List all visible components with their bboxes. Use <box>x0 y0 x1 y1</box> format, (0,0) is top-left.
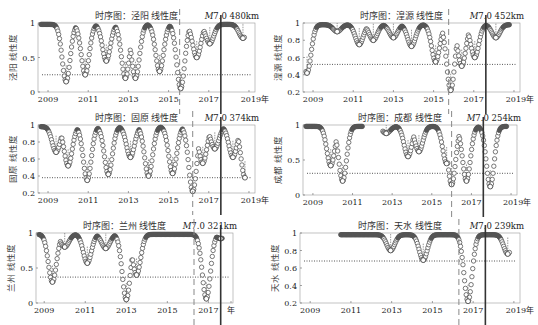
data-point <box>452 70 456 74</box>
data-point <box>139 250 143 254</box>
data-point <box>495 138 499 142</box>
figure-canvas: 时序图：泾阳 线性度M7.0 480km泾阳 线性度00.51200920112… <box>0 0 538 325</box>
data-point <box>325 151 329 155</box>
data-point <box>185 150 189 154</box>
data-point <box>439 140 443 144</box>
dip-point <box>391 35 396 40</box>
y-tick-label: 0 <box>28 299 33 308</box>
dip-point <box>335 29 340 34</box>
data-point <box>163 42 167 46</box>
data-point <box>116 244 120 248</box>
x-tick-label: 2015 <box>157 306 177 315</box>
data-point <box>186 157 190 161</box>
data-point <box>53 268 57 272</box>
data-point <box>120 61 124 65</box>
dip-point <box>243 175 248 180</box>
x-tick-label: 2017 <box>199 95 219 104</box>
dip-point <box>459 64 464 69</box>
data-point <box>139 135 143 139</box>
data-point <box>174 55 178 59</box>
data-point <box>127 281 131 285</box>
data-point <box>455 44 459 48</box>
dip-point <box>85 178 90 183</box>
data-point <box>464 46 468 50</box>
data-point <box>490 177 494 181</box>
data-point <box>153 47 157 51</box>
data-point <box>462 279 466 283</box>
y-tick-label: 0.8 <box>22 138 35 147</box>
data-point <box>151 33 155 37</box>
data-point <box>154 53 158 57</box>
data-point <box>78 137 82 141</box>
data-point <box>183 134 187 138</box>
x-tick-label: 2009 <box>38 196 58 205</box>
data-point <box>66 71 70 75</box>
x-tick-label: 2019年 <box>241 195 269 205</box>
dip-point <box>128 155 133 160</box>
y-tick-label: 0.2 <box>284 299 297 308</box>
data-point <box>197 150 201 154</box>
data-point <box>468 290 472 294</box>
data-point <box>461 263 465 267</box>
data-point <box>142 156 146 160</box>
data-point <box>171 36 175 40</box>
data-point <box>117 248 121 252</box>
data-point <box>458 142 462 146</box>
dip-point <box>421 258 426 263</box>
data-point <box>121 277 125 281</box>
x-tick-label: 2009 <box>300 306 320 315</box>
data-point <box>80 147 84 151</box>
data-point <box>149 164 153 168</box>
dip-point <box>103 246 108 251</box>
y-tick-label: 0.8 <box>284 247 297 256</box>
data-point <box>100 138 104 142</box>
data-point <box>332 154 336 158</box>
y-tick-label: 0.2 <box>287 88 300 97</box>
data-point <box>507 23 511 27</box>
data-point <box>121 67 125 71</box>
data-point <box>198 45 202 49</box>
data-point <box>61 144 65 148</box>
data-point <box>188 180 192 184</box>
data-point <box>69 152 73 156</box>
data-point <box>136 64 140 68</box>
data-point <box>323 138 327 142</box>
data-point <box>309 53 313 57</box>
chart-panel-4: 时序图：成都 线性度M7.0 254km成都 线性度00.51200920112… <box>273 111 531 217</box>
y-tick-label: 1 <box>295 121 300 130</box>
data-point <box>308 59 312 63</box>
data-point <box>118 254 122 258</box>
dip-point <box>417 149 422 154</box>
dip-point <box>194 55 199 60</box>
data-point <box>206 290 210 294</box>
data-point <box>343 171 347 175</box>
dip-point <box>54 150 59 155</box>
x-tick-label: 2015 <box>158 95 178 104</box>
data-point <box>462 270 466 274</box>
data-point <box>150 159 154 163</box>
data-point <box>89 41 93 45</box>
chart-title: 时序图：固原 线性度 <box>95 112 179 123</box>
data-point <box>128 273 132 277</box>
data-point <box>494 143 498 147</box>
data-point <box>88 46 92 50</box>
data-point <box>208 269 212 273</box>
data-point <box>470 142 474 146</box>
data-point <box>199 258 203 262</box>
data-point <box>77 41 81 45</box>
dip-point <box>357 42 362 47</box>
data-point <box>492 157 496 161</box>
dip-point <box>62 245 67 250</box>
data-point <box>91 141 95 145</box>
data-point <box>139 39 143 43</box>
data-point <box>183 59 187 63</box>
y-tick-label: 0.6 <box>287 54 300 63</box>
data-point <box>459 147 463 151</box>
data-point <box>469 282 473 286</box>
chart-title: 时序图：泾阳 线性度 <box>95 10 179 21</box>
data-point <box>337 162 341 166</box>
data-point <box>109 41 113 45</box>
data-point <box>199 265 203 269</box>
event-annotation: M7.0 239km <box>469 221 524 231</box>
data-point <box>174 157 178 161</box>
